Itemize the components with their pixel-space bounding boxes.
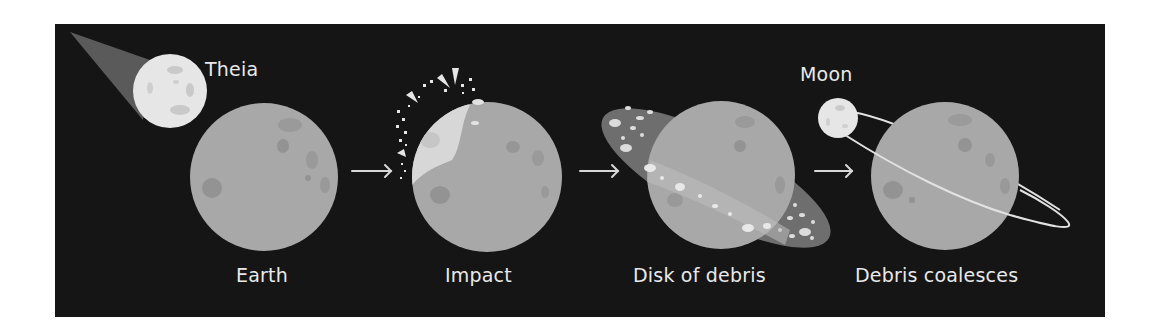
- impact-planet: [400, 98, 562, 253]
- theia-label: Theia: [205, 60, 258, 79]
- debris-coalesces-label: Debris coalesces: [855, 266, 1018, 285]
- moon-label: Moon: [800, 65, 852, 84]
- arrow-right-icon: [815, 165, 852, 177]
- earth-planet: [190, 103, 338, 251]
- arrow-right-icon: [580, 165, 618, 177]
- coalesce-planet: [871, 102, 1019, 250]
- arrow-right-icon: [352, 165, 391, 177]
- impact-label: Impact: [445, 266, 512, 285]
- disk-of-debris-label: Disk of debris: [633, 266, 766, 285]
- earth-label: Earth: [236, 266, 288, 285]
- theia-body: [133, 54, 207, 128]
- moon-body: [818, 98, 858, 138]
